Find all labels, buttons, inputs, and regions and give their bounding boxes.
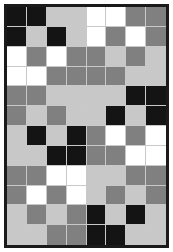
grid-cell-r2-c4 — [67, 27, 87, 47]
grid-cell-r4-c7 — [126, 67, 146, 87]
grid-cell-r3-c5 — [87, 47, 107, 67]
mosaic-figure — [0, 0, 173, 252]
grid-cell-r2-c6 — [106, 27, 126, 47]
tile-grid — [7, 7, 166, 245]
grid-cell-r6-c8 — [146, 106, 166, 126]
grid-cell-r7-c4 — [67, 126, 87, 146]
grid-cell-r12-c3 — [47, 225, 67, 245]
grid-cell-r12-c8 — [146, 225, 166, 245]
grid-cell-r4-c2 — [27, 67, 47, 87]
grid-cell-r9-c8 — [146, 166, 166, 186]
grid-cell-r5-c5 — [87, 86, 107, 106]
grid-cell-r4-c3 — [47, 67, 67, 87]
grid-cell-r7-c8 — [146, 126, 166, 146]
grid-cell-r5-c8 — [146, 86, 166, 106]
grid-cell-r9-c2 — [27, 166, 47, 186]
grid-cell-r6-c7 — [126, 106, 146, 126]
grid-cell-r6-c3 — [47, 106, 67, 126]
grid-frame — [4, 4, 169, 248]
grid-cell-r2-c5 — [87, 27, 107, 47]
grid-cell-r3-c8 — [146, 47, 166, 67]
grid-cell-r4-c4 — [67, 67, 87, 87]
grid-cell-r12-c1 — [7, 225, 27, 245]
grid-cell-r12-c7 — [126, 225, 146, 245]
grid-cell-r4-c8 — [146, 67, 166, 87]
grid-cell-r10-c2 — [27, 186, 47, 206]
grid-cell-r5-c6 — [106, 86, 126, 106]
grid-cell-r11-c2 — [27, 205, 47, 225]
grid-cell-r2-c8 — [146, 27, 166, 47]
grid-cell-r8-c5 — [87, 146, 107, 166]
grid-cell-r3-c6 — [106, 47, 126, 67]
grid-cell-r1-c4 — [67, 7, 87, 27]
grid-cell-r9-c5 — [87, 166, 107, 186]
grid-cell-r12-c5 — [87, 225, 107, 245]
grid-cell-r11-c7 — [126, 205, 146, 225]
grid-cell-r10-c7 — [126, 186, 146, 206]
grid-cell-r12-c2 — [27, 225, 47, 245]
grid-cell-r10-c6 — [106, 186, 126, 206]
grid-cell-r3-c4 — [67, 47, 87, 67]
grid-cell-r10-c1 — [7, 186, 27, 206]
grid-cell-r11-c8 — [146, 205, 166, 225]
grid-cell-r8-c8 — [146, 146, 166, 166]
grid-cell-r12-c6 — [106, 225, 126, 245]
grid-cell-r10-c8 — [146, 186, 166, 206]
grid-cell-r5-c3 — [47, 86, 67, 106]
grid-cell-r1-c1 — [7, 7, 27, 27]
grid-cell-r2-c3 — [47, 27, 67, 47]
grid-cell-r10-c4 — [67, 186, 87, 206]
grid-cell-r11-c3 — [47, 205, 67, 225]
grid-cell-r5-c4 — [67, 86, 87, 106]
grid-cell-r6-c5 — [87, 106, 107, 126]
grid-cell-r11-c5 — [87, 205, 107, 225]
grid-cell-r7-c6 — [106, 126, 126, 146]
grid-cell-r2-c7 — [126, 27, 146, 47]
grid-cell-r3-c3 — [47, 47, 67, 67]
grid-cell-r9-c7 — [126, 166, 146, 186]
grid-cell-r9-c4 — [67, 166, 87, 186]
grid-cell-r7-c1 — [7, 126, 27, 146]
grid-cell-r6-c4 — [67, 106, 87, 126]
grid-cell-r8-c3 — [47, 146, 67, 166]
grid-cell-r5-c1 — [7, 86, 27, 106]
grid-cell-r1-c8 — [146, 7, 166, 27]
grid-cell-r7-c3 — [47, 126, 67, 146]
grid-cell-r11-c1 — [7, 205, 27, 225]
grid-cell-r1-c2 — [27, 7, 47, 27]
grid-cell-r1-c6 — [106, 7, 126, 27]
grid-cell-r5-c2 — [27, 86, 47, 106]
grid-cell-r6-c6 — [106, 106, 126, 126]
grid-cell-r10-c3 — [47, 186, 67, 206]
grid-cell-r8-c6 — [106, 146, 126, 166]
grid-cell-r6-c1 — [7, 106, 27, 126]
grid-cell-r2-c2 — [27, 27, 47, 47]
grid-cell-r6-c2 — [27, 106, 47, 126]
grid-cell-r7-c7 — [126, 126, 146, 146]
grid-cell-r4-c5 — [87, 67, 107, 87]
grid-cell-r3-c7 — [126, 47, 146, 67]
grid-cell-r1-c7 — [126, 7, 146, 27]
grid-cell-r3-c2 — [27, 47, 47, 67]
grid-cell-r11-c6 — [106, 205, 126, 225]
grid-cell-r9-c3 — [47, 166, 67, 186]
grid-cell-r8-c4 — [67, 146, 87, 166]
grid-cell-r11-c4 — [67, 205, 87, 225]
grid-cell-r8-c7 — [126, 146, 146, 166]
grid-cell-r4-c1 — [7, 67, 27, 87]
grid-cell-r8-c2 — [27, 146, 47, 166]
grid-cell-r10-c5 — [87, 186, 107, 206]
grid-cell-r9-c6 — [106, 166, 126, 186]
grid-cell-r1-c5 — [87, 7, 107, 27]
grid-cell-r7-c2 — [27, 126, 47, 146]
grid-cell-r9-c1 — [7, 166, 27, 186]
grid-cell-r3-c1 — [7, 47, 27, 67]
grid-cell-r1-c3 — [47, 7, 67, 27]
grid-cell-r12-c4 — [67, 225, 87, 245]
grid-cell-r8-c1 — [7, 146, 27, 166]
grid-cell-r4-c6 — [106, 67, 126, 87]
grid-cell-r7-c5 — [87, 126, 107, 146]
grid-cell-r5-c7 — [126, 86, 146, 106]
grid-cell-r2-c1 — [7, 27, 27, 47]
